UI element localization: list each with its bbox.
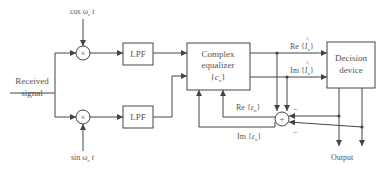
- cos-carrier: cos ωc t: [70, 7, 95, 46]
- re-i-hat-accent: ^: [306, 36, 309, 42]
- sin-carrier: sin ωc t: [71, 124, 95, 163]
- complex-equalizer: Complex equalizer {cn}: [187, 43, 250, 90]
- summing-junction: +: [275, 112, 289, 126]
- decision-device: Decision device: [327, 42, 375, 88]
- im-i-hat-label: Im {In}: [290, 66, 314, 76]
- top-mixer: ×: [76, 46, 90, 60]
- multiply-icon: ×: [81, 49, 86, 58]
- im-error-label: Im {εn}: [237, 132, 261, 142]
- decision-label-line2: device: [339, 65, 362, 75]
- sin-carrier-label: sin ωc t: [71, 153, 95, 163]
- re-error-label: Re {εn}: [236, 103, 260, 113]
- received-signal-label-line1: Received: [15, 76, 49, 86]
- decision-label-line1: Decision: [335, 53, 367, 63]
- plus-icon: +: [280, 115, 285, 124]
- cos-carrier-label: cos ωc t: [70, 7, 95, 17]
- lpf-top-label: LPF: [130, 49, 146, 59]
- multiply-icon: ×: [81, 113, 86, 122]
- output-label: Output: [331, 153, 354, 162]
- re-i-hat-label: Re {In}: [290, 42, 314, 52]
- lpf-bottom: LPF: [123, 106, 153, 128]
- lpf-bottom-label: LPF: [130, 112, 146, 122]
- equalizer-coefficients-label: {cn}: [210, 72, 225, 83]
- minus-sign-bottom: −: [293, 128, 298, 137]
- qam-receiver-diagram: Received signal cos ωc t sin ωc t × × LP…: [0, 0, 380, 170]
- minus-sign-top: −: [293, 105, 298, 114]
- equalizer-label-line2: equalizer: [202, 60, 235, 70]
- im-i-hat-accent: ^: [306, 60, 309, 66]
- lpf-top: LPF: [123, 43, 153, 65]
- lpf-bottom-to-equalizer: [153, 76, 187, 117]
- received-signal-input: Received signal: [10, 53, 76, 117]
- im-decision-to-summer: [289, 122, 362, 127]
- equalizer-label-line1: Complex: [202, 49, 235, 59]
- bottom-mixer: ×: [76, 110, 90, 124]
